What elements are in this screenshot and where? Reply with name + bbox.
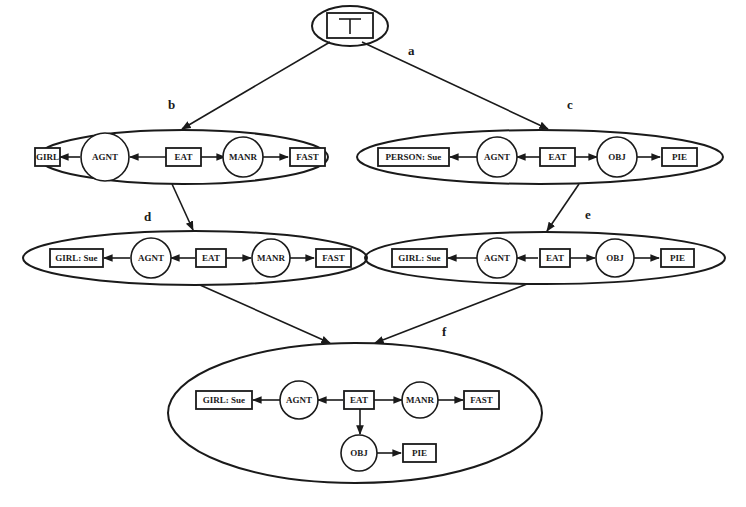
concept-label: PIE: [672, 152, 687, 162]
graph-tag-f: f: [442, 324, 447, 339]
graph-d: d GIRL: Sue AGNT EAT MANR FAST: [23, 209, 367, 285]
hierarchy-edges: [172, 42, 579, 343]
relation-label: OBJ: [608, 152, 626, 162]
relation-label: MANR: [257, 253, 285, 263]
concept-label: FAST: [296, 152, 318, 162]
concept-label: PIE: [412, 448, 427, 458]
graph-b: b GIRL AGNT EAT MANR FAST: [35, 97, 328, 184]
edge-c-to-e: [547, 184, 579, 231]
relation-label: OBJ: [350, 448, 368, 458]
edge-d-to-f: [200, 285, 330, 343]
edge-a-to-b: [182, 42, 330, 129]
relation-label: MANR: [229, 152, 257, 162]
graph-a: a: [312, 6, 415, 58]
graph-c: c PERSON: Sue AGNT EAT OBJ PIE: [357, 97, 723, 184]
edge-a-to-c: [362, 42, 548, 129]
concept-label: EAT: [350, 395, 368, 405]
concept-label: EAT: [549, 152, 567, 162]
concept-label: GIRL: Sue: [55, 253, 97, 263]
relation-label: AGNT: [484, 152, 510, 162]
concept-label: FAST: [470, 395, 492, 405]
relation-label: MANR: [406, 395, 434, 405]
graph-tag-a: a: [408, 43, 415, 58]
concept-label: EAT: [202, 253, 220, 263]
edge-e-to-f: [375, 284, 527, 343]
graph-f: f GIRL: Sue AGNT EAT MANR FAST OBJ PIE: [168, 324, 542, 483]
concept-label: EAT: [175, 152, 193, 162]
concept-label: FAST: [322, 253, 344, 263]
concept-label: EAT: [546, 253, 564, 263]
concept-label: PIE: [670, 253, 685, 263]
graph-tag-e: e: [585, 207, 591, 222]
concept-label: GIRL: Sue: [398, 253, 440, 263]
relation-label: AGNT: [138, 253, 164, 263]
relation-label: OBJ: [606, 253, 624, 263]
graph-tag-d: d: [144, 209, 152, 224]
relation-label: AGNT: [484, 253, 510, 263]
relation-label: AGNT: [286, 395, 312, 405]
relation-label: AGNT: [92, 152, 118, 162]
concept-label: PERSON: Sue: [386, 152, 442, 162]
concept-label: GIRL: Sue: [203, 395, 245, 405]
edge-b-to-d: [172, 184, 193, 230]
graph-e: e GIRL: Sue AGNT EAT OBJ PIE: [365, 207, 725, 284]
conceptual-graph-diagram: a b GIRL AGNT EAT MANR FAST c PERSON: Su…: [0, 0, 746, 507]
graph-tag-b: b: [168, 97, 175, 112]
concept-label: GIRL: [36, 152, 59, 162]
graph-tag-c: c: [567, 97, 573, 112]
